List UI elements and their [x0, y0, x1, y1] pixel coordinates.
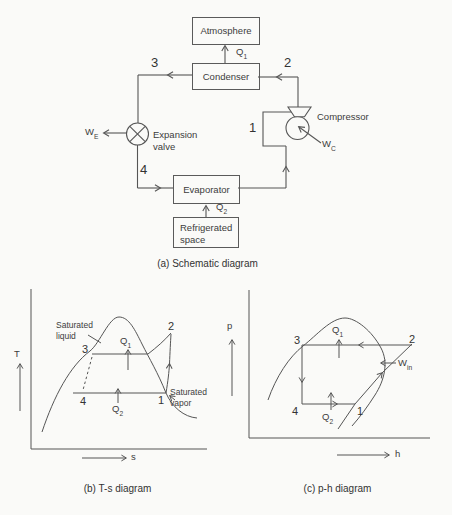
state-point-3-schematic: 3 [151, 56, 158, 69]
ts-point-4: 4 [80, 396, 86, 407]
atmosphere-box: Atmosphere [192, 17, 260, 45]
evaporator-box: Evaporator [173, 175, 240, 204]
ts-line-1-2 [170, 334, 172, 364]
ts-q1-label: Q1 [120, 336, 131, 348]
caption-schematic: (a) Schematic diagram [140, 258, 275, 269]
ts-point-3: 3 [82, 344, 88, 355]
ts-q2-label: Q2 [112, 404, 123, 416]
state-point-2-schematic: 2 [284, 56, 291, 69]
caption-ts: (b) T-s diagram [60, 483, 175, 494]
ph-point-1: 1 [357, 406, 363, 417]
ts-point-2: 2 [168, 321, 174, 332]
refrigeration-cycle-figure: Atmosphere Condenser Evaporator Refriger… [0, 0, 452, 515]
ph-line-1-2-lower [338, 388, 369, 429]
condenser-box: Condenser [192, 63, 260, 90]
compressor-label: Compressor [317, 112, 369, 122]
ph-q1-label: Q1 [332, 325, 343, 337]
ts-y-axis-label: T [14, 349, 20, 359]
ph-q2-label: Q2 [322, 412, 333, 424]
ts-point-1: 1 [158, 395, 164, 406]
compressor-funnel [288, 107, 311, 117]
q2-label-schematic: Q2 [216, 202, 227, 214]
atmosphere-label: Atmosphere [200, 25, 251, 37]
ph-point-2: 2 [409, 334, 415, 345]
evaporator-label: Evaporator [183, 184, 229, 196]
condenser-label: Condenser [203, 71, 249, 83]
wc-label: WC [322, 139, 336, 151]
ts-line-3-4-dashed [83, 357, 92, 390]
state-point-1-schematic: 1 [249, 121, 256, 134]
expansion-valve-label: Expansion valve [153, 129, 203, 154]
ph-saturation-dome [268, 318, 385, 426]
state-point-4-schematic: 4 [140, 163, 147, 176]
ts-diagram-linework [20, 289, 207, 458]
ph-diagram-linework [232, 290, 430, 455]
refrigerated-space-label: Refrigerated space [180, 222, 236, 247]
we-label: WE [85, 127, 98, 139]
caption-ph: (c) p-h diagram [280, 483, 395, 494]
ph-point-4: 4 [292, 406, 298, 417]
ts-x-axis-label: s [131, 452, 136, 462]
q1-label-schematic: Q1 [236, 47, 247, 59]
ph-point-3: 3 [294, 335, 300, 346]
ts-line-1-2-arrow [166, 364, 170, 393]
refrigerated-space-box: Refrigerated space [173, 217, 239, 248]
ph-win-label: Win [398, 358, 412, 370]
ts-saturated-vapor-label: Saturated vapor [170, 387, 214, 409]
ph-y-axis-label: p [227, 321, 232, 331]
compressor-symbol [286, 117, 309, 140]
ts-curve-dome-2 [148, 333, 171, 354]
ts-saturated-liquid-label: Saturated liquid [56, 320, 100, 342]
ph-x-axis-label: h [395, 449, 400, 459]
